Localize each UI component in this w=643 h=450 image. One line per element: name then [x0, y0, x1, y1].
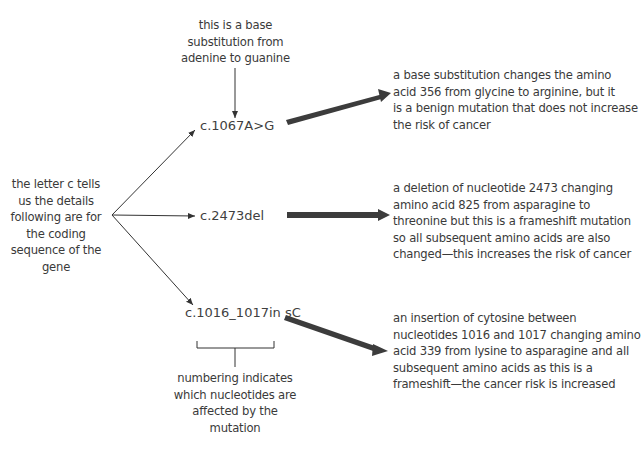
mutation-code-1067: c.1067A>G [200, 118, 274, 134]
thick-arrow-1016 [284, 315, 388, 356]
branch-arrow-1016 [112, 215, 193, 305]
mutation-code-1016: c.1016_1017in sC [185, 305, 301, 321]
bottom-note: numbering indicates which nucleotides ar… [165, 370, 305, 436]
mutation-code-2473: c.2473del [200, 208, 264, 224]
thick-arrow-2473 [287, 209, 390, 221]
top-note: this is a base substitution from adenine… [168, 17, 303, 67]
numbering-bracket [197, 341, 274, 367]
branch-arrow-1067 [112, 130, 195, 215]
description-2473: a deletion of nucleotide 2473 changing a… [393, 180, 643, 263]
branch-arrow-2473 [112, 215, 195, 216]
left-note: the letter c tells us the details follow… [0, 176, 112, 276]
description-1067: a base substitution changes the amino ac… [393, 67, 643, 133]
description-1016: an insertion of cytosine between nucleot… [393, 310, 643, 393]
thick-arrow-1067 [286, 89, 391, 125]
